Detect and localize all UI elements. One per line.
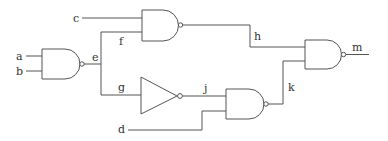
nand-gate-3 xyxy=(226,89,268,119)
label-m: m xyxy=(352,41,363,54)
label-h: h xyxy=(254,30,261,43)
wire-d xyxy=(128,111,226,130)
label-j: j xyxy=(202,82,207,95)
wire-h xyxy=(183,25,305,47)
label-a: a xyxy=(16,50,23,63)
nand-gate-4 xyxy=(305,40,346,69)
nand-gate-2 xyxy=(142,10,183,41)
label-b: b xyxy=(16,65,23,78)
nand-gate-1 xyxy=(42,49,84,79)
label-c: c xyxy=(73,12,79,25)
logic-circuit-diagram: a b e f g c h j d k m xyxy=(0,0,388,141)
label-e: e xyxy=(92,51,99,64)
not-gate xyxy=(141,77,182,114)
label-d: d xyxy=(118,123,125,136)
label-k: k xyxy=(288,81,295,94)
label-f: f xyxy=(119,35,124,48)
label-g: g xyxy=(118,81,125,94)
wire-k xyxy=(268,61,305,104)
